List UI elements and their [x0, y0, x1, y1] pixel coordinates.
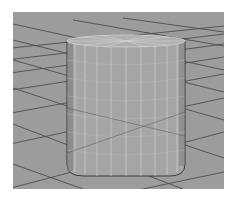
- scene-canvas: [13, 12, 224, 189]
- 3d-viewport[interactable]: [13, 12, 224, 189]
- cylinder-object[interactable]: [67, 35, 185, 176]
